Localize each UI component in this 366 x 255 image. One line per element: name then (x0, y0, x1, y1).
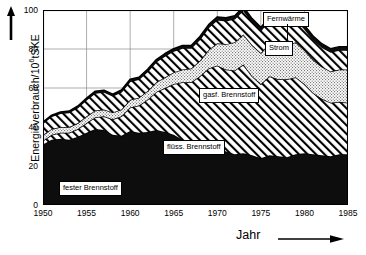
x-tick-label-1950: 1950 (34, 208, 53, 218)
y-tick-label-40: 40 (12, 122, 38, 132)
x-tick-label-1960: 1960 (121, 208, 140, 218)
x-tick-label-1955: 1955 (77, 208, 96, 218)
x-axis-title: Jahr (236, 228, 260, 242)
stacked-area-chart (43, 10, 348, 205)
callout-fester: fester Brennstoff (59, 181, 122, 196)
y-tick-label-20: 20 (12, 161, 38, 171)
y-tick-label-100: 100 (12, 5, 38, 15)
x-axis-arrow-icon (278, 234, 344, 244)
x-axis-tick-labels: 19501955196019651970197519801985 (0, 208, 366, 222)
x-tick-label-1970: 1970 (208, 208, 227, 218)
y-tick-label-80: 80 (12, 44, 38, 54)
callout-fernwaerme: Fernwärme (263, 12, 309, 27)
x-tick-label-1965: 1965 (164, 208, 183, 218)
callout-gasf: gasf. Brennstoff (199, 88, 259, 103)
plot-area (43, 10, 348, 205)
x-tick-label-1980: 1980 (295, 208, 314, 218)
callout-fluess: flüss. Brennstoff (163, 140, 225, 155)
x-tick-label-1975: 1975 (251, 208, 270, 218)
callout-strom: Strom (265, 41, 293, 56)
chart-figure: Energieverbrauch/106tSKE 020406080100 19… (0, 0, 366, 255)
x-tick-label-1985: 1985 (339, 208, 358, 218)
y-tick-label-60: 60 (12, 83, 38, 93)
